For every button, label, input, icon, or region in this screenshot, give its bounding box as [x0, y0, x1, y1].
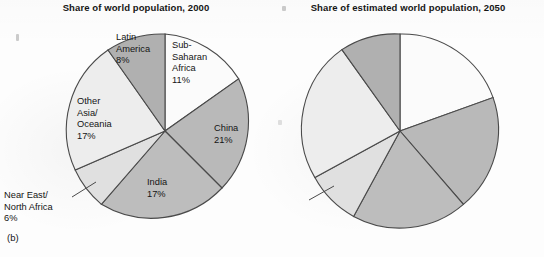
pie-svg-2050 — [272, 0, 544, 257]
label-value: 8% — [116, 55, 150, 67]
label-value: 17% — [147, 189, 167, 201]
label-line: Sub- — [172, 40, 207, 52]
label-near-east-north-africa: Near East/ North Africa 6% — [4, 190, 53, 225]
figure-page: Share of world population, 2000 — [0, 0, 544, 257]
label-line: Asia/ — [77, 108, 112, 120]
label-china: China 21% — [214, 123, 238, 146]
label-india: India 17% — [147, 177, 167, 200]
panel-2050: Share of estimated world population, 205… — [272, 0, 544, 257]
label-latin-america: Latin America 8% — [116, 32, 150, 67]
label-other-asia-oceania: Other Asia/ Oceania 17% — [77, 96, 112, 142]
figure-letter: (b) — [7, 232, 19, 243]
label-line: China — [214, 123, 238, 135]
label-value: 6% — [4, 213, 53, 225]
label-value: 11% — [172, 75, 207, 87]
pie-chart-2050 — [272, 0, 544, 257]
label-line: America — [116, 44, 150, 56]
pie-slices-2050 — [301, 34, 498, 228]
panel-2000: Share of world population, 2000 — [0, 0, 272, 257]
label-line: Latin — [116, 32, 150, 44]
label-line: India — [147, 177, 167, 189]
label-value: 17% — [77, 131, 112, 143]
label-line: North Africa — [4, 202, 53, 214]
label-line: Africa — [172, 63, 207, 75]
label-sub-saharan-africa: Sub- Saharan Africa 11% — [172, 40, 207, 86]
label-line: Saharan — [172, 52, 207, 64]
label-value: 21% — [214, 135, 238, 147]
label-line: Other — [77, 96, 112, 108]
label-line: Oceania — [77, 119, 112, 131]
label-line: Near East/ — [4, 190, 53, 202]
